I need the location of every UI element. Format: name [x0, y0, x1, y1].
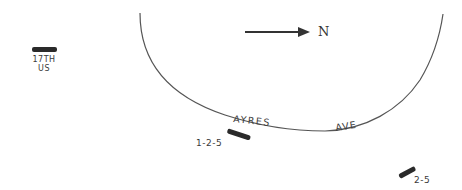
map-canvas: AYRES AVE — [0, 0, 462, 190]
marker-17th-line1: 17TH — [32, 55, 56, 64]
north-label: N — [318, 24, 329, 39]
north-arrow-icon — [245, 27, 310, 37]
map-sketch: AYRES AVE — [0, 0, 462, 190]
marker-17th-us-bar[interactable] — [32, 47, 57, 52]
marker-17th-us-label: 17TH US — [32, 55, 56, 73]
marker-1-2-5-bar[interactable] — [227, 128, 251, 140]
marker-1-2-5-label: 1-2-5 — [196, 138, 222, 148]
marker-2-5-label: 2-5 — [414, 175, 430, 185]
street-label-ayres: AYRES — [233, 113, 272, 128]
ayres-ave-curve — [140, 13, 443, 131]
marker-17th-line2: US — [32, 64, 56, 73]
street-label-ave: AVE — [335, 119, 358, 133]
